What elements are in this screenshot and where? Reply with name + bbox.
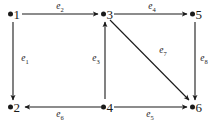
- node-label: 2: [14, 101, 21, 114]
- node-dot-icon: [8, 105, 13, 110]
- edge-label-e5: e5: [146, 109, 153, 122]
- graph-node-3: 3: [101, 8, 113, 21]
- node-dot-icon: [190, 105, 195, 110]
- edge-label-e8: e8: [200, 53, 207, 67]
- edge-label-subscript: 7: [163, 50, 166, 57]
- node-label: 3: [107, 8, 114, 21]
- edge-label-e2: e2: [56, 1, 63, 15]
- node-dot-icon: [101, 12, 106, 17]
- edge-label-e1: e1: [21, 53, 28, 67]
- edge-e7-line: [110, 20, 189, 100]
- node-label: 1: [14, 8, 21, 21]
- edge-label-subscript: 2: [60, 6, 63, 13]
- edge-label-subscript: 1: [25, 58, 28, 65]
- edge-label-subscript: 5: [150, 114, 153, 121]
- node-label: 5: [196, 8, 203, 21]
- node-label: 6: [196, 101, 203, 114]
- edge-label-e4: e4: [148, 1, 155, 15]
- graph-node-5: 5: [190, 8, 202, 21]
- graph-node-2: 2: [8, 101, 20, 114]
- node-label: 4: [107, 101, 114, 114]
- edge-label-e3: e3: [92, 53, 99, 67]
- node-dot-icon: [190, 12, 195, 17]
- edge-label-subscript: 4: [152, 6, 155, 13]
- graph-node-4: 4: [101, 101, 113, 114]
- graph-node-1: 1: [8, 8, 20, 21]
- edge-label-subscript: 6: [60, 114, 63, 121]
- edge-label-e7: e7: [159, 45, 166, 59]
- edge-label-e6: e6: [56, 109, 63, 122]
- node-dot-icon: [8, 12, 13, 17]
- edge-label-subscript: 8: [204, 58, 207, 65]
- edge-label-subscript: 3: [96, 58, 99, 65]
- directed-graph-figure: 1 2 3 4 5 6 e1 e2 e3 e4 e5 e6 e7 e8: [0, 0, 220, 122]
- node-dot-icon: [101, 105, 106, 110]
- graph-node-6: 6: [190, 101, 202, 114]
